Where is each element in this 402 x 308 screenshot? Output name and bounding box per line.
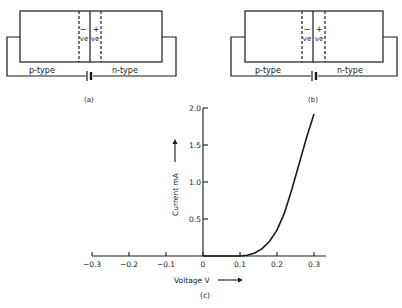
iv-chart: −0.3−0.2−0.100.10.20.30.51.01.52.0Voltag… [83, 104, 326, 300]
x-tick-label: 0.1 [234, 260, 246, 269]
x-axis-label: Voltage V [174, 276, 211, 285]
y-tick-label: 1.0 [189, 178, 201, 187]
neg-sign-b: − [304, 25, 311, 34]
x-tick-label: −0.1 [157, 260, 175, 269]
x-tick-label: −0.2 [120, 260, 138, 269]
y-label-arrow-head-icon [173, 139, 178, 144]
y-tick-label: 0.5 [189, 215, 201, 224]
caption-a: (a) [84, 96, 94, 104]
y-tick-label: 1.5 [189, 141, 201, 150]
caption-c: (c) [200, 291, 210, 300]
x-tick-label: 0.3 [308, 260, 320, 269]
pos-label-a: ve [91, 35, 99, 43]
neg-label-b: ve [303, 35, 311, 43]
caption-b: (b) [308, 96, 318, 104]
pos-sign-a: + [93, 25, 100, 34]
figure: − ve + ve p-type n-type (a) − ve + ve p-… [0, 0, 402, 308]
x-tick-label: 0.2 [271, 260, 283, 269]
n-type-label-b: n-type [337, 66, 363, 75]
labels-b: − ve + ve p-type n-type (b) [255, 25, 363, 104]
pos-sign-b: + [316, 25, 323, 34]
y-tick-label: 2.0 [189, 104, 201, 113]
n-type-label-a: n-type [112, 66, 138, 75]
x-tick-label: −0.3 [83, 260, 101, 269]
x-label-arrow-head-icon [238, 278, 243, 283]
labels-a: − ve + ve p-type n-type (a) [29, 25, 138, 104]
p-type-label-b: p-type [255, 66, 281, 75]
p-type-label-a: p-type [29, 66, 55, 75]
iv-curve [203, 114, 314, 256]
x-tick-label: 0 [201, 260, 206, 269]
y-axis-label: Current mA [171, 172, 180, 216]
neg-sign-a: − [80, 25, 87, 34]
neg-label-a: ve [80, 35, 88, 43]
pos-label-b: ve [315, 35, 323, 43]
